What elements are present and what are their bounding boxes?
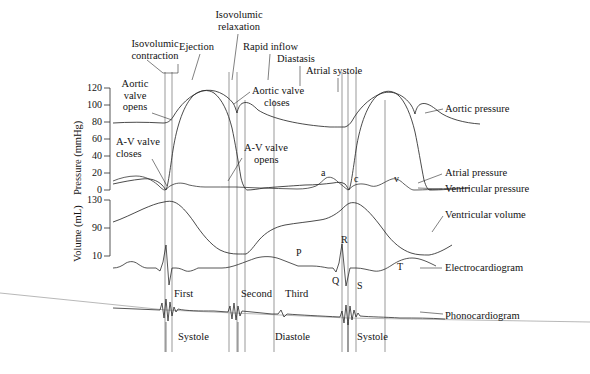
leader-rapid-inflow: [268, 54, 270, 80]
event-label-line1: A-V valve: [116, 136, 160, 147]
pressure-tick-20: 20: [76, 168, 102, 178]
curve-label-electrocardiogram: Electrocardiogram: [445, 262, 523, 274]
phase-label-rapid-inflow: Rapid inflow: [243, 41, 298, 53]
event-label-av-valve-closes: A-V valve closes: [116, 136, 160, 159]
pressure-tick-40: 40: [76, 151, 102, 161]
volume-tick-90: 90: [76, 223, 102, 233]
pressure-axis-ticks: [104, 88, 110, 190]
event-label-line1: A-V valve: [244, 142, 288, 153]
atrial-wave-c: c: [354, 174, 358, 184]
pressure-tick-120: 120: [76, 83, 102, 93]
ecg-wave-p: P: [296, 248, 302, 258]
ventricular-volume-curve: [113, 201, 452, 255]
curve-label-ventricular-pressure: Ventricular pressure: [445, 183, 529, 195]
volume-tick-130: 130: [76, 195, 102, 205]
event-label-line1: Aortic: [122, 78, 149, 89]
curve-label-phonocardiogram: Phonocardiogram: [445, 310, 520, 322]
phase-label-line1: Isovolumic: [215, 9, 262, 20]
heart-sound-third: Third: [285, 288, 308, 299]
leader-phonocardiogram: [420, 312, 443, 314]
phase-label-line2: relaxation: [218, 21, 260, 32]
curve-label-leaders: [418, 109, 443, 314]
phase-label-line2: contraction: [131, 50, 178, 61]
atrial-wave-a: a: [321, 168, 325, 178]
event-label-av-valve-opens: A-V valve opens: [244, 142, 288, 165]
phase-label-isovolumic-relaxation: Isovolumic relaxation: [202, 9, 276, 32]
heart-sound-second: Second: [241, 288, 272, 299]
pressure-tick-80: 80: [76, 117, 102, 127]
event-label-line2: closes: [264, 97, 290, 109]
leader-atrial-pressure: [418, 174, 442, 183]
ecg-wave-q: Q: [332, 276, 339, 286]
event-leader-lines: [152, 92, 250, 186]
ecg-wave-t: T: [397, 262, 403, 272]
event-label-line2: opens: [254, 154, 279, 166]
pressure-axis: [104, 88, 110, 190]
leader-isovolumic-contraction: [147, 60, 178, 73]
leader-ventricular-pressure: [418, 188, 442, 189]
event-grid-lines: [165, 72, 385, 352]
pressure-tick-100: 100: [76, 100, 102, 110]
heart-sound-first: First: [174, 288, 193, 299]
curve-label-atrial-pressure: Atrial pressure: [445, 167, 507, 179]
phase-label-ejection: Ejection: [179, 41, 214, 53]
phase-label-diastasis: Diastasis: [277, 53, 315, 65]
phase-label-line1: Isovolumic: [131, 38, 178, 49]
curve-label-ventricular-volume: Ventricular volume: [445, 209, 526, 221]
event-label-line2: valve: [124, 90, 147, 101]
volume-tick-10: 10: [76, 251, 102, 261]
phonocardiogram-trace: [113, 299, 445, 325]
electrocardiogram-curve: [113, 244, 436, 286]
ecg-wave-s: S: [357, 281, 363, 291]
event-label-line2: closes: [116, 148, 142, 159]
pressure-tick-60: 60: [76, 134, 102, 144]
event-label-line1: Aortic valve: [252, 85, 304, 96]
atrial-wave-v: v: [394, 174, 399, 184]
curve-label-aortic-pressure: Aortic pressure: [445, 103, 509, 115]
volume-axis-ticks: [104, 200, 110, 256]
leader-aortic-valve-opens: [152, 113, 172, 120]
cycle-phase-systole-2: Systole: [357, 331, 388, 342]
event-label-line3: opens: [123, 101, 148, 112]
leader-ventricular-volume: [432, 216, 443, 232]
cycle-phase-diastole: Diastole: [275, 331, 310, 342]
cycle-phase-systole-1: Systole: [178, 331, 209, 342]
event-label-aortic-valve-closes: Aortic valve closes: [252, 85, 304, 108]
leader-ejection: [192, 54, 200, 80]
ecg-wave-r: R: [341, 235, 348, 245]
event-label-aortic-valve-opens: Aortic valve opens: [112, 78, 158, 113]
phase-label-atrial-systole: Atrial systole: [306, 65, 362, 77]
volume-axis: [104, 200, 110, 256]
leader-aortic-valve-closes: [234, 92, 250, 104]
